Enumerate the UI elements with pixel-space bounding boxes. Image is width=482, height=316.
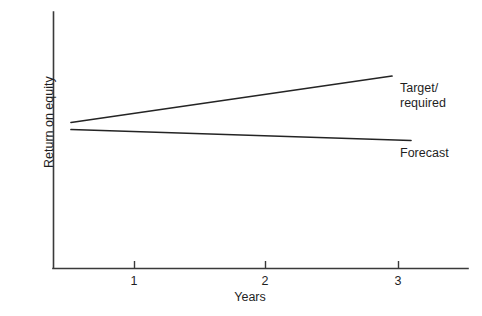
chart-figure: Return on equity 1 2 3 Years Target/ req… [0, 0, 482, 316]
series-line-forecast [71, 130, 411, 141]
series-label-forecast: Forecast [400, 146, 449, 161]
series-label-target-required: Target/ required [400, 81, 446, 111]
y-axis-title: Return on equity [42, 76, 56, 168]
x-tick-label-1: 1 [119, 274, 149, 288]
x-tick-label-3: 3 [383, 274, 413, 288]
x-axis-title: Years [190, 290, 310, 304]
series-label-target-line2: required [400, 96, 446, 111]
series-label-target-line1: Target/ [400, 81, 446, 96]
x-tick-label-2: 2 [250, 274, 280, 288]
series-line-target-required [71, 76, 392, 123]
series-label-forecast-text: Forecast [400, 146, 449, 161]
